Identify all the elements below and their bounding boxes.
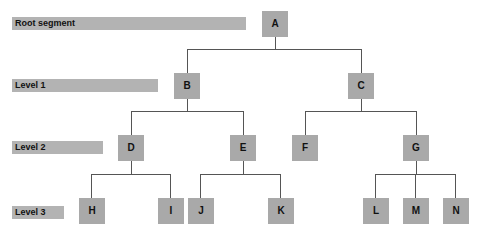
node-f: F <box>292 135 318 161</box>
level-label-root: Root segment <box>12 17 246 30</box>
node-h: H <box>79 198 105 224</box>
connector <box>131 111 132 135</box>
connector <box>187 49 188 73</box>
connector <box>243 161 244 174</box>
level-label-2: Level 2 <box>12 141 103 154</box>
connector <box>200 174 201 198</box>
connector <box>91 174 92 198</box>
node-m: M <box>403 198 429 224</box>
node-k: K <box>268 198 294 224</box>
connector <box>170 174 171 198</box>
connector <box>187 49 362 50</box>
node-j: J <box>188 198 214 224</box>
connector <box>455 174 456 198</box>
connector <box>305 111 417 112</box>
node-a: A <box>262 11 288 37</box>
level-label-3: Level 3 <box>12 206 64 219</box>
connector <box>275 37 276 49</box>
node-n: N <box>443 198 469 224</box>
node-e: E <box>230 135 256 161</box>
connector <box>416 111 417 135</box>
connector <box>187 99 188 111</box>
connector <box>375 174 376 198</box>
connector <box>131 111 244 112</box>
node-l: L <box>363 198 389 224</box>
connector <box>131 161 132 174</box>
connector <box>415 174 416 198</box>
connector <box>200 174 281 175</box>
connector <box>416 161 417 174</box>
node-i: I <box>158 198 184 224</box>
node-g: G <box>403 135 429 161</box>
node-c: C <box>348 73 374 99</box>
node-d: D <box>118 135 144 161</box>
connector <box>91 174 171 175</box>
node-b: B <box>174 73 200 99</box>
connector <box>243 111 244 135</box>
level-label-1: Level 1 <box>12 79 158 92</box>
connector <box>280 174 281 198</box>
connector <box>361 99 362 111</box>
connector <box>361 49 362 73</box>
connector <box>305 111 306 135</box>
